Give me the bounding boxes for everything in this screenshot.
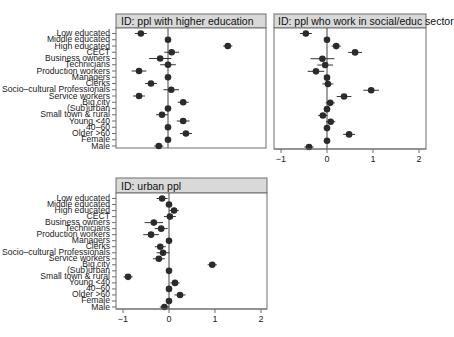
data-point [322, 62, 329, 69]
data-point [148, 231, 155, 238]
data-point [368, 87, 375, 94]
data-point [166, 237, 173, 244]
data-point [325, 81, 332, 88]
data-point [166, 201, 173, 208]
data-point [333, 43, 340, 50]
data-point [172, 280, 179, 287]
data-point [327, 100, 334, 107]
data-point [324, 125, 331, 132]
data-point [160, 249, 167, 256]
data-point [151, 219, 158, 226]
data-point [167, 213, 174, 220]
data-point [303, 30, 310, 37]
data-point [171, 207, 178, 214]
data-point [319, 55, 326, 62]
data-point [157, 243, 164, 250]
data-point [352, 49, 359, 56]
panel-title-urban: ID: urban ppl [121, 180, 181, 192]
x-tick-label: 2 [409, 155, 429, 164]
data-point [156, 255, 163, 262]
x-tick-label: 0 [159, 315, 179, 324]
data-point [166, 286, 173, 293]
plot-frame [274, 28, 426, 149]
y-axis-label: Male [91, 303, 110, 312]
data-point [159, 195, 166, 202]
data-point [324, 137, 331, 144]
data-point [158, 225, 165, 232]
panel-title-social-educ-sector: ID: ppl who work in social/educ sector [278, 15, 454, 27]
data-point [313, 68, 320, 75]
x-tick-label: 2 [251, 315, 271, 324]
x-tick-label: 1 [205, 315, 225, 324]
data-point [125, 274, 132, 281]
data-point [324, 74, 331, 81]
plot-area-urban [0, 0, 270, 337]
data-point [209, 262, 216, 269]
data-point [341, 93, 348, 100]
plot-frame [116, 193, 267, 309]
x-tick-label: −1 [271, 155, 291, 164]
data-point [346, 131, 353, 138]
panel-urban: ID: urban ppl [0, 0, 270, 337]
data-point [177, 292, 184, 299]
x-tick-label: 0 [317, 155, 337, 164]
data-point [327, 118, 334, 125]
data-point [324, 106, 331, 113]
data-point [166, 268, 173, 275]
data-point [320, 112, 327, 119]
x-tick-label: 1 [363, 155, 383, 164]
y-axis-label: Male [91, 142, 110, 151]
data-point [324, 37, 331, 44]
x-tick-label: −1 [113, 315, 133, 324]
data-point [166, 298, 173, 305]
